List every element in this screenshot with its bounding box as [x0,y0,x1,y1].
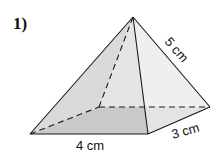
front-face [30,17,148,134]
base-width-label: 4 cm [76,138,104,153]
pyramid-diagram: 5 cm 4 cm 3 cm [0,0,222,153]
